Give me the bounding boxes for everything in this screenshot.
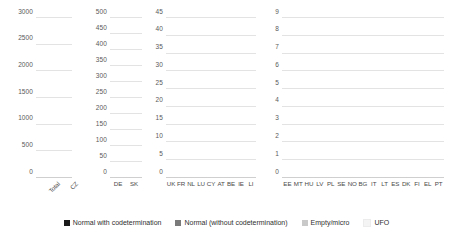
x-axis-tick-label: BG (358, 178, 369, 187)
y-axis-tick-label: 25 (156, 79, 163, 86)
y-axis-tick-label: 350 (96, 56, 107, 63)
y-axis-tick-label: 3 (275, 115, 279, 122)
x-axis-tick-label: FI (412, 178, 423, 187)
bar-slot (433, 18, 444, 178)
y-axis-tick-label: 150 (96, 120, 107, 127)
bar-slot (54, 18, 72, 178)
bar-slot (196, 18, 206, 178)
x-axis-tick-label: LU (196, 178, 206, 187)
bar-slot (314, 18, 325, 178)
y-axis-tick-label: 20 (156, 97, 163, 104)
bar-slot (304, 18, 315, 178)
y-axis-tick-label: 5 (159, 150, 163, 157)
bar-slot (36, 18, 54, 178)
chart-panel-ee-pt: 0123456789EEMTHULVPLSENOBGITLTESDKFIELPT (282, 18, 444, 178)
x-axis-tick-label: HU (304, 178, 315, 187)
x-axis-tick-label: SK (126, 178, 142, 187)
y-axis-tick-label: 2000 (18, 62, 33, 69)
bar-slot (347, 18, 358, 178)
bar-group (110, 18, 142, 178)
y-axis-tick-label: 7 (275, 44, 279, 51)
y-axis-tick-label: 0 (275, 168, 279, 175)
x-axis-tick-label: CZ (59, 178, 89, 208)
x-axis-tick-label: IT (368, 178, 379, 187)
bar-group (36, 18, 72, 178)
x-axis-labels: TotalCZ (36, 178, 72, 202)
legend-item[interactable]: Empty/micro (302, 219, 350, 227)
x-axis-tick-label: LT (379, 178, 390, 187)
bar-slot (336, 18, 347, 178)
y-axis-tick-label: 500 (96, 8, 107, 15)
y-axis-tick-label: 6 (275, 62, 279, 69)
bar-slot (293, 18, 304, 178)
plot-area: 050010001500200025003000TotalCZ (36, 18, 72, 178)
legend-label: Normal with codetermination (73, 219, 162, 227)
y-axis-tick-label: 45 (156, 8, 163, 15)
bar-slot (176, 18, 186, 178)
bar-slot (325, 18, 336, 178)
y-axis-tick-label: 10 (156, 133, 163, 140)
bar-slot (412, 18, 423, 178)
bar-slot (186, 18, 196, 178)
y-axis-tick-label: 5 (275, 79, 279, 86)
x-axis-tick-label: EL (422, 178, 433, 187)
y-axis-tick-label: 40 (156, 26, 163, 33)
legend-label: Empty/micro (311, 219, 350, 227)
plot-area: 051015202530354045UKFRNLLUCYATBEIELI (166, 18, 256, 178)
y-axis-tick-label: 0 (103, 168, 107, 175)
legend-item[interactable]: UFO (363, 219, 389, 227)
x-axis-labels: UKFRNLLUCYATBEIELI (166, 178, 256, 187)
legend-item[interactable]: Normal (without codetermination) (175, 219, 287, 227)
bar-slot (422, 18, 433, 178)
x-axis-tick-label: ES (390, 178, 401, 187)
x-axis-tick-label: LV (314, 178, 325, 187)
legend-swatch-icon (175, 220, 181, 226)
chart-panel-total: 050010001500200025003000TotalCZ (36, 18, 72, 178)
y-axis-tick-label: 1500 (18, 88, 33, 95)
x-axis-labels: EEMTHULVPLSENOBGITLTESDKFIELPT (282, 178, 444, 187)
x-axis-tick-label: SE (336, 178, 347, 187)
bar-slot (236, 18, 246, 178)
chart-panel-uk-li: 051015202530354045UKFRNLLUCYATBEIELI (166, 18, 256, 178)
bar-group (282, 18, 444, 178)
y-axis-tick-label: 8 (275, 26, 279, 33)
bar-slot (282, 18, 293, 178)
legend-label: Normal (without codetermination) (184, 219, 287, 227)
x-axis-tick-label: PL (325, 178, 336, 187)
y-axis-tick-label: 300 (96, 72, 107, 79)
bar-slot (216, 18, 226, 178)
y-axis-tick-label: 0 (29, 168, 33, 175)
x-axis-tick-label: EE (282, 178, 293, 187)
legend-swatch-icon (302, 220, 308, 226)
bar-slot (110, 18, 126, 178)
y-axis-tick-label: 4 (275, 97, 279, 104)
x-axis-tick-label: UK (166, 178, 176, 187)
plot-area: 050100150200250300350400450500DESK (110, 18, 142, 178)
bar-slot (246, 18, 256, 178)
y-axis-tick-label: 400 (96, 40, 107, 47)
bar-slot (358, 18, 369, 178)
bar-slot (379, 18, 390, 178)
bar-slot (206, 18, 216, 178)
x-axis-tick-label: LI (246, 178, 256, 187)
y-axis-tick-label: 200 (96, 104, 107, 111)
chart-canvas: 050010001500200025003000TotalCZ 05010015… (0, 0, 453, 233)
legend-swatch-icon (363, 219, 371, 227)
x-axis-tick-label: PT (433, 178, 444, 187)
bar-group (166, 18, 256, 178)
bar-slot (126, 18, 142, 178)
plot-area: 0123456789EEMTHULVPLSENOBGITLTESDKFIELPT (282, 18, 444, 178)
x-axis-tick-label: FR (176, 178, 186, 187)
x-axis-tick-label: NO (347, 178, 358, 187)
y-axis-tick-label: 35 (156, 44, 163, 51)
x-axis-tick-label: NL (186, 178, 196, 187)
x-axis-labels: DESK (110, 178, 142, 187)
legend-swatch-icon (64, 220, 70, 226)
x-axis-tick-label: BE (226, 178, 236, 187)
x-axis-tick-label: CY (206, 178, 216, 187)
y-axis-tick-label: 15 (156, 115, 163, 122)
y-axis-tick-label: 100 (96, 136, 107, 143)
bar-slot (226, 18, 236, 178)
y-axis-tick-label: 2 (275, 133, 279, 140)
legend-item[interactable]: Normal with codetermination (64, 219, 162, 227)
